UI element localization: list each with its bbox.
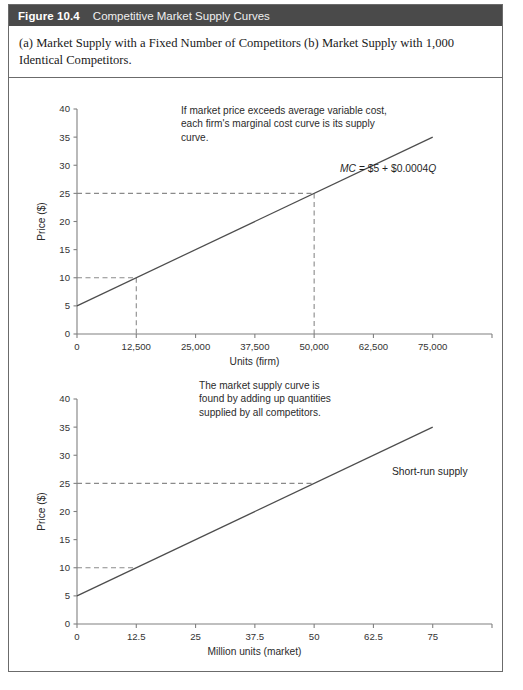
- y-tick-label-8: 40: [59, 393, 70, 404]
- y-tick-label-6: 30: [59, 160, 70, 171]
- x-tick-label-1: 12.5: [127, 631, 146, 642]
- figure-header-bar: Figure 10.4 Competitive Market Supply Cu…: [9, 5, 502, 26]
- y-tick-label-5: 25: [59, 478, 70, 489]
- x-axis-title: Units (firm): [230, 356, 280, 367]
- supply-curve-0: [77, 427, 433, 596]
- x-tick-label-4: 50: [309, 631, 320, 642]
- y-tick-label-5: 25: [59, 188, 70, 199]
- x-tick-label-1: 12,500: [122, 341, 151, 352]
- chart-panel-a: 0510152025303540012,50025,00037,50050,00…: [9, 79, 504, 369]
- y-tick-label-7: 35: [59, 132, 70, 143]
- x-tick-label-3: 37,500: [240, 341, 269, 352]
- y-tick-label-8: 40: [59, 103, 70, 114]
- y-tick-label-4: 20: [59, 506, 70, 517]
- x-tick-label-0: 0: [74, 341, 79, 352]
- y-tick-label-0: 0: [65, 618, 70, 629]
- x-tick-label-2: 25: [190, 631, 201, 642]
- y-axis-title: Price ($): [36, 202, 47, 241]
- x-tick-label-5: 62,500: [359, 341, 388, 352]
- y-tick-label-0: 0: [65, 328, 70, 339]
- y-tick-label-2: 10: [59, 562, 70, 573]
- figure-number: Figure 10.4: [18, 10, 80, 22]
- figure-title: Competitive Market Supply Curves: [93, 10, 270, 22]
- x-axis-title: Million units (market): [208, 646, 302, 657]
- figure-container: Figure 10.4 Competitive Market Supply Cu…: [8, 4, 503, 672]
- x-tick-label-4: 50,000: [299, 341, 328, 352]
- x-tick-label-6: 75: [427, 631, 438, 642]
- y-tick-label-3: 15: [59, 244, 70, 255]
- chart-b-annotation: The market supply curve is found by addi…: [199, 379, 409, 419]
- x-tick-label-6: 75,000: [418, 341, 447, 352]
- y-tick-label-1: 5: [65, 590, 70, 601]
- mc-symbol: MC: [340, 163, 356, 174]
- mc-equation-body: = $5 + $0.0004: [356, 163, 428, 174]
- chart-a-annotation: If market price exceeds average variable…: [181, 104, 411, 144]
- chart-b-curve-label: Short-run supply: [392, 466, 468, 477]
- y-tick-label-7: 35: [59, 422, 70, 433]
- y-tick-label-2: 10: [59, 272, 70, 283]
- chart-panel-b: 0510152025303540012.52537.55062.575Milli…: [9, 369, 504, 671]
- x-tick-label-3: 37.5: [246, 631, 265, 642]
- y-axis-title: Price ($): [36, 492, 47, 531]
- y-tick-label-1: 5: [65, 300, 70, 311]
- x-tick-label-0: 0: [74, 631, 79, 642]
- y-tick-label-3: 15: [59, 534, 70, 545]
- figure-caption: (a) Market Supply with a Fixed Number of…: [9, 26, 502, 77]
- caption-divider: [9, 77, 502, 78]
- x-tick-label-2: 25,000: [181, 341, 210, 352]
- q-symbol: Q: [428, 163, 436, 174]
- y-tick-label-4: 20: [59, 216, 70, 227]
- chart-a-curve-label: MC = $5 + $0.0004Q: [340, 163, 436, 174]
- x-tick-label-5: 62.5: [364, 631, 383, 642]
- y-tick-label-6: 30: [59, 450, 70, 461]
